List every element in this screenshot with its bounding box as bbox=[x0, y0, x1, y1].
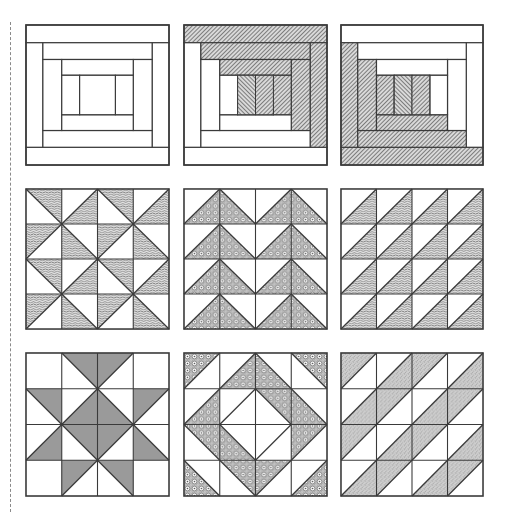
log-strip bbox=[184, 25, 327, 43]
log-strip bbox=[26, 43, 43, 148]
quilt-block-ohio-star bbox=[25, 352, 170, 497]
quilt-block-log-cabin-shaded-top-right bbox=[183, 24, 328, 166]
log-strip bbox=[291, 60, 310, 131]
log-strip bbox=[220, 75, 238, 114]
log-strip bbox=[62, 75, 80, 114]
log-strip bbox=[358, 131, 466, 148]
quilt-block-sheet bbox=[0, 0, 507, 518]
log-strip bbox=[448, 60, 467, 131]
quilt-block-diamond-in-square bbox=[183, 352, 328, 497]
log-strip bbox=[220, 60, 292, 76]
quilt-block-log-cabin-shaded-bottom-left bbox=[340, 24, 484, 166]
log-strip bbox=[152, 43, 169, 148]
log-strip bbox=[80, 75, 116, 114]
log-strip bbox=[43, 131, 152, 148]
log-strip bbox=[62, 115, 134, 131]
quilt-block-pinwheel-triangles bbox=[25, 188, 170, 330]
log-strip bbox=[115, 75, 133, 114]
log-strip bbox=[184, 43, 201, 148]
log-strip bbox=[220, 115, 292, 131]
log-strip bbox=[358, 43, 466, 60]
log-strip bbox=[376, 60, 447, 76]
log-strip bbox=[430, 75, 448, 114]
log-strip bbox=[341, 43, 358, 148]
log-strip bbox=[62, 60, 134, 76]
log-strip bbox=[26, 147, 169, 165]
log-strip bbox=[201, 131, 310, 148]
log-strip bbox=[466, 43, 483, 148]
log-strip bbox=[376, 115, 447, 131]
log-strip bbox=[184, 147, 327, 165]
log-strip bbox=[43, 43, 152, 60]
log-strip bbox=[358, 60, 377, 131]
quilt-block-log-cabin-plain bbox=[25, 24, 170, 166]
log-strip bbox=[26, 25, 169, 43]
log-strip bbox=[341, 25, 483, 43]
log-strip bbox=[273, 75, 291, 114]
quilt-block-streak-of-lightning bbox=[340, 352, 484, 497]
log-strip bbox=[201, 60, 220, 131]
log-strip bbox=[43, 60, 62, 131]
quilt-block-flying-geese bbox=[183, 188, 328, 330]
dashed-cut-line bbox=[10, 22, 11, 512]
log-strip bbox=[310, 43, 327, 148]
log-strip bbox=[341, 147, 483, 165]
log-strip bbox=[133, 60, 152, 131]
quilt-block-sawtooth-triangles bbox=[340, 188, 484, 330]
log-strip bbox=[376, 75, 394, 114]
log-strip bbox=[201, 43, 310, 60]
